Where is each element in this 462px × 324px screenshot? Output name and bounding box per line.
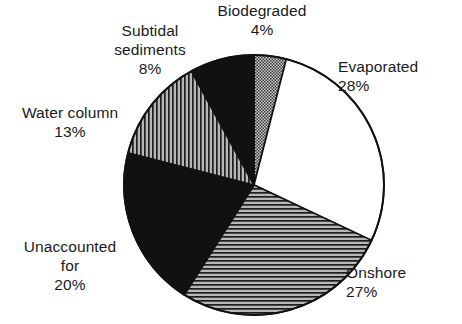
slice-label-biodegraded-value: 4%	[192, 21, 332, 40]
pie-chart-figure: Biodegraded 4% Evaporated 28% Onshore 27…	[0, 0, 462, 324]
slice-label-subtidal-sediments-name-line2: sediments	[88, 41, 212, 60]
slice-label-evaporated-value: 28%	[338, 77, 458, 96]
slice-label-water-column: Water column 13%	[2, 104, 138, 142]
slice-label-subtidal-sediments-name-line1: Subtidal	[88, 22, 212, 41]
slice-label-subtidal-sediments-value: 8%	[88, 60, 212, 79]
slice-label-water-column-value: 13%	[2, 123, 138, 142]
slice-label-water-column-name: Water column	[2, 104, 138, 123]
slice-label-unaccounted-for-name-line1: Unaccounted	[2, 238, 138, 257]
slice-label-unaccounted-for-name-line2: for	[2, 257, 138, 276]
slice-label-biodegraded: Biodegraded 4%	[192, 2, 332, 40]
slice-label-onshore-value: 27%	[346, 283, 458, 302]
slice-label-unaccounted-for: Unaccounted for 20%	[2, 238, 138, 295]
slice-label-onshore: Onshore 27%	[346, 264, 458, 302]
slice-label-evaporated: Evaporated 28%	[338, 58, 458, 96]
slice-label-evaporated-name: Evaporated	[338, 58, 458, 77]
slice-label-subtidal-sediments: Subtidal sediments 8%	[88, 22, 212, 79]
slice-label-unaccounted-for-value: 20%	[2, 276, 138, 295]
slice-label-onshore-name: Onshore	[346, 264, 458, 283]
slice-label-biodegraded-name: Biodegraded	[192, 2, 332, 21]
